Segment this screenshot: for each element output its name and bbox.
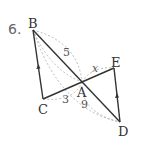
point-label-B: B bbox=[28, 16, 38, 31]
point-label-C: C bbox=[38, 102, 48, 117]
problem-number: 6. bbox=[8, 21, 21, 37]
measure-AE: x bbox=[92, 62, 99, 75]
point-label-D: D bbox=[118, 124, 128, 139]
diagram-labels: 6. B C A E D 5 x 3 9 bbox=[0, 0, 141, 148]
point-label-E: E bbox=[111, 55, 121, 70]
measure-CA: 3 bbox=[62, 93, 69, 106]
measure-BA: 5 bbox=[63, 46, 70, 59]
measure-AD: 9 bbox=[81, 98, 88, 111]
